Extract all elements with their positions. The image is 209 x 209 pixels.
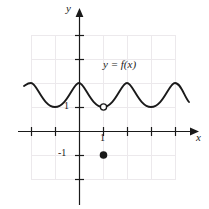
x-tick-label-1: 1 <box>100 132 105 143</box>
y-tick-label-negative-1: -1 <box>58 147 66 158</box>
function-curve-label: y = f(x) <box>103 58 136 70</box>
x-axis-label: x <box>196 131 201 143</box>
x-axis <box>18 128 199 136</box>
y-axis-label: y <box>66 2 71 14</box>
filled-point-marker <box>100 151 108 159</box>
y-tick-label-1: 1 <box>64 100 69 111</box>
open-point-marker <box>100 104 106 110</box>
graph-figure: y x 1 -1 1 y = f(x) <box>0 0 209 209</box>
y-axis <box>76 8 84 205</box>
function-curve <box>24 83 189 107</box>
coordinate-plane <box>0 0 209 209</box>
